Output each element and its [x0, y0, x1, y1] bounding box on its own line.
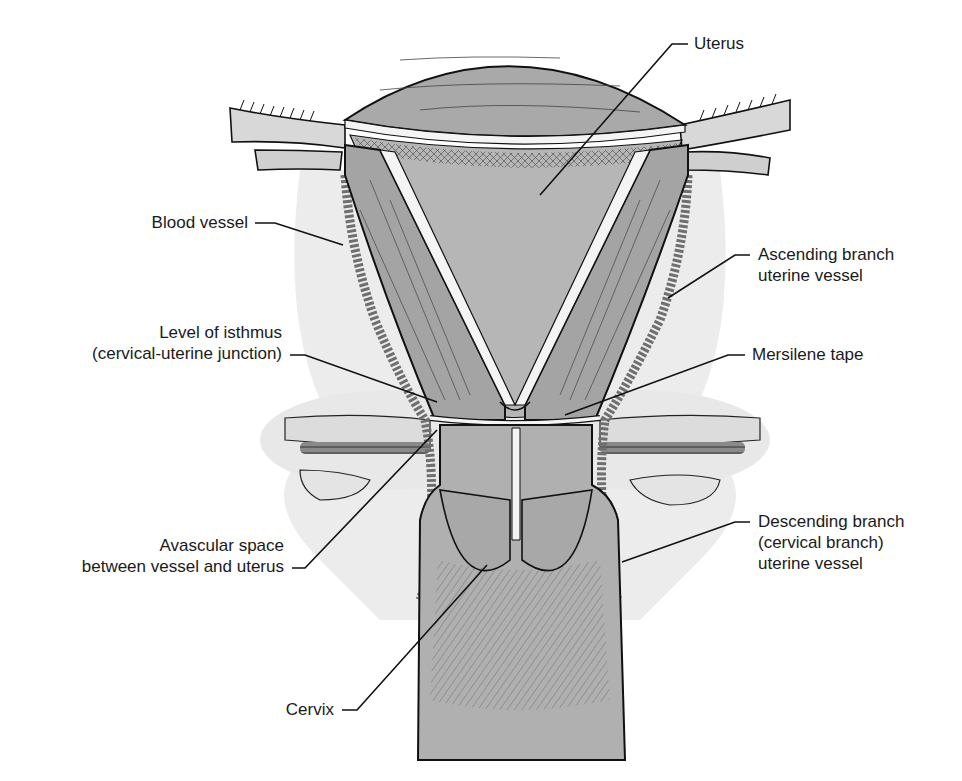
- label-mersilene-tape: Mersilene tape: [752, 344, 864, 365]
- label-ascending-branch: Ascending branch uterine vessel: [758, 244, 894, 286]
- left-horizontal-vessel: [300, 442, 430, 454]
- label-isthmus: Level of isthmus (cervical-uterine junct…: [30, 322, 282, 364]
- label-avascular-space: Avascular space between vessel and uteru…: [20, 535, 284, 577]
- label-uterus: Uterus: [694, 33, 744, 54]
- diagram-canvas: Uterus Blood vessel Ascending branch ute…: [0, 0, 962, 781]
- uterine-fundus: [345, 57, 685, 144]
- label-cervix: Cervix: [240, 699, 334, 720]
- left-adnexa: [230, 100, 345, 170]
- label-descending-branch: Descending branch (cervical branch) uter…: [758, 511, 904, 574]
- right-adnexa: [680, 94, 790, 175]
- anatomy-illustration: [0, 0, 962, 781]
- label-blood-vessel: Blood vessel: [118, 212, 248, 233]
- right-horizontal-vessel: [600, 442, 745, 454]
